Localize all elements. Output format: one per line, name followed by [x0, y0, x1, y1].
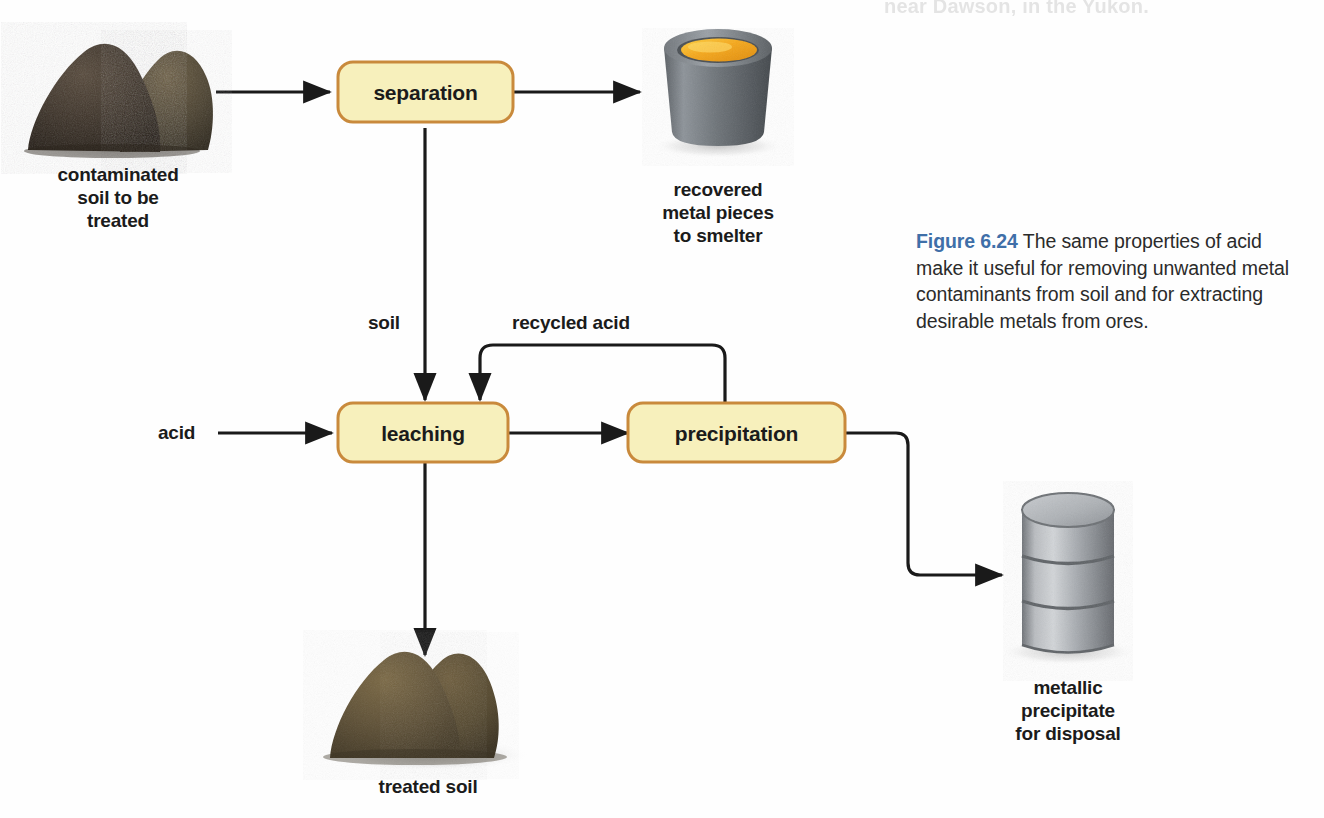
figure-number: Figure 6.24: [916, 230, 1018, 252]
contaminated-soil-illustration: [24, 44, 213, 161]
process-label-precipitation[interactable]: precipitation: [628, 422, 845, 446]
edge-label-recycled-acid: recycled acid: [512, 312, 630, 334]
figure-page: near Dawson, in the Yukon.: [0, 0, 1324, 818]
edge-label-acid: acid: [158, 422, 195, 444]
process-label-separation[interactable]: separation: [338, 81, 513, 105]
figure-caption: Figure 6.24 The same properties of acid …: [916, 228, 1308, 334]
process-label-leaching[interactable]: leaching: [338, 422, 508, 446]
metal-drum-illustration: [1000, 493, 1136, 665]
treated-soil-illustration: [323, 652, 530, 771]
edge-label-soil: soil: [368, 312, 400, 334]
crucible-illustration: [652, 29, 784, 158]
object-label-recovered-metal: recovered metal pieces to smelter: [610, 178, 826, 247]
object-label-metallic-precipitate: metallic precipitate for disposal: [960, 676, 1176, 745]
object-label-treated-soil: treated soil: [320, 775, 536, 798]
object-label-contaminated-soil: contaminated soil to be treated: [10, 163, 226, 232]
